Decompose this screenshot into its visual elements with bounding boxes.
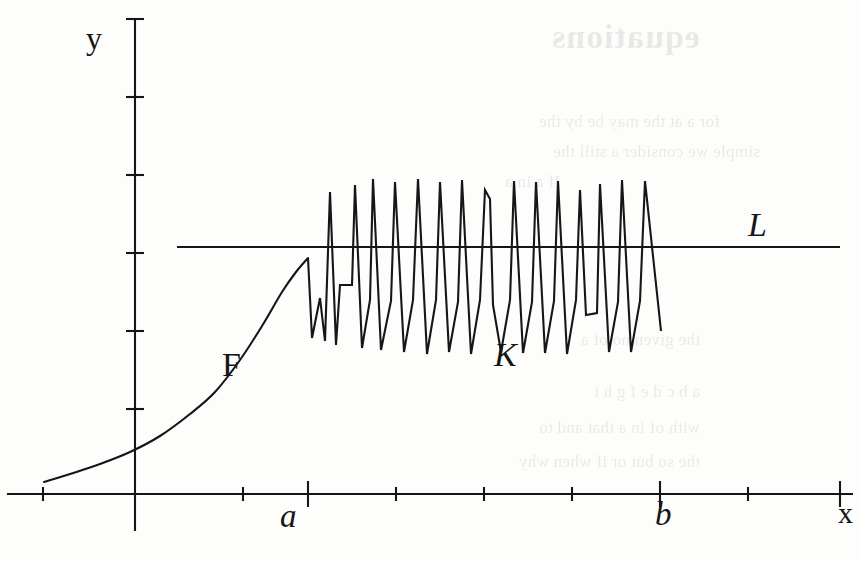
x-axis-label: x bbox=[838, 498, 853, 528]
figure-canvas: equations for a at the may be by the sim… bbox=[0, 0, 862, 561]
tick-label-a: a bbox=[280, 500, 297, 533]
curve-label-F: F bbox=[222, 348, 241, 382]
y-axis-label: y bbox=[86, 22, 102, 54]
curve-F bbox=[44, 258, 308, 482]
curve-label-K: K bbox=[494, 338, 517, 372]
graph-plot bbox=[0, 0, 862, 561]
curve-K-oscillation bbox=[308, 179, 661, 354]
line-label-L: L bbox=[748, 208, 767, 242]
tick-label-b: b bbox=[655, 498, 672, 531]
axes-group bbox=[8, 19, 852, 530]
